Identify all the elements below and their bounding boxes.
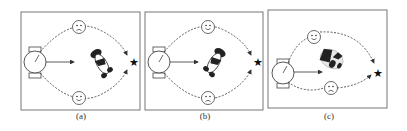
caption-a: (a) (16, 111, 146, 121)
sad-face-icon (325, 82, 338, 95)
caption-c: (c) (264, 111, 394, 121)
caption-b: (b) (140, 111, 270, 121)
sad-face-icon (202, 92, 215, 105)
happy-face-icon (202, 21, 215, 34)
sad-face-icon (73, 21, 86, 34)
star-icon: ★ (253, 56, 263, 68)
panel-a: ★ (a) (16, 0, 146, 131)
happy-face-icon (308, 31, 321, 44)
happy-face-icon (73, 92, 86, 105)
panel-b: ★ (b) (140, 0, 270, 131)
panel-c: ★ (c) (264, 0, 394, 131)
star-icon: ★ (129, 56, 139, 68)
star-icon: ★ (373, 67, 383, 79)
